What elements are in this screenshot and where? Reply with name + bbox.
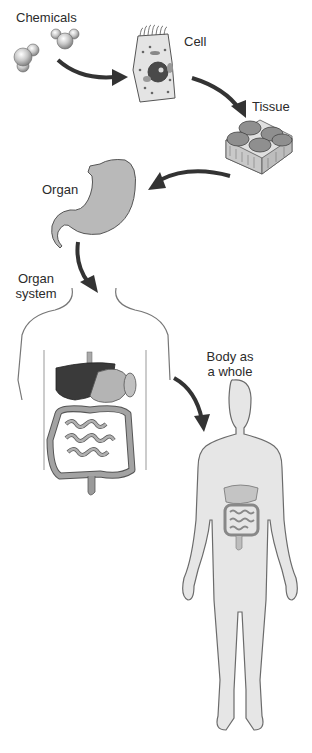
digestive-system-icon xyxy=(50,352,136,495)
cell-icon xyxy=(133,25,175,102)
arrow-icon xyxy=(192,78,246,118)
molecule-icon xyxy=(51,29,79,49)
arrow-icon xyxy=(174,378,210,432)
diagram-canvas xyxy=(0,0,312,753)
arrow-icon xyxy=(58,60,128,86)
tissue-icon xyxy=(226,120,292,174)
arrow-icon xyxy=(77,242,98,293)
stomach-icon xyxy=(52,160,136,249)
human-body-icon xyxy=(183,380,298,730)
molecule-icon xyxy=(14,44,39,72)
arrow-icon xyxy=(148,171,230,190)
